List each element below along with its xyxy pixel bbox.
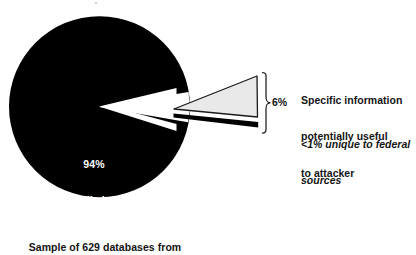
figure-caption: Sample of 629 databases from federal pro…	[10, 216, 200, 255]
callout-main-line1: Specific information	[301, 94, 415, 106]
callout-sub-text: <1% unique to federal sources	[301, 113, 416, 211]
caption-line1: Sample of 629 databases from	[10, 241, 200, 253]
callout-sub-line1: <1% unique to federal	[301, 138, 416, 150]
callout-brace	[263, 73, 271, 134]
pie-chart-figure: 94% not likely to be useful 6% Specific …	[0, 0, 416, 255]
callout-sub-line2: sources	[301, 174, 416, 186]
callout-percent-label: 6%	[272, 96, 287, 108]
pie-center-line2: not likely to	[28, 194, 160, 206]
pie-center-percent: 94%	[28, 158, 160, 170]
scan-artifact	[95, 2, 97, 4]
